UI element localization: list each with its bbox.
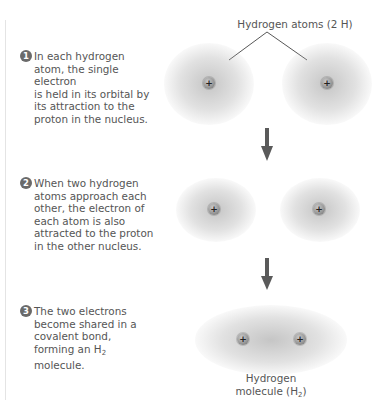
hydrogen-molecule-label: Hydrogen molecule (H2) [221,372,321,402]
proton-icon: + [294,333,306,345]
number-badge-icon: 3 [20,305,32,317]
shared-electron-cloud [195,305,347,375]
step-3-description: 3 The two electrons become shared in a c… [20,305,160,372]
step-3-text: The two electrons become shared in a cov… [20,305,160,372]
proton-icon: + [237,333,249,345]
